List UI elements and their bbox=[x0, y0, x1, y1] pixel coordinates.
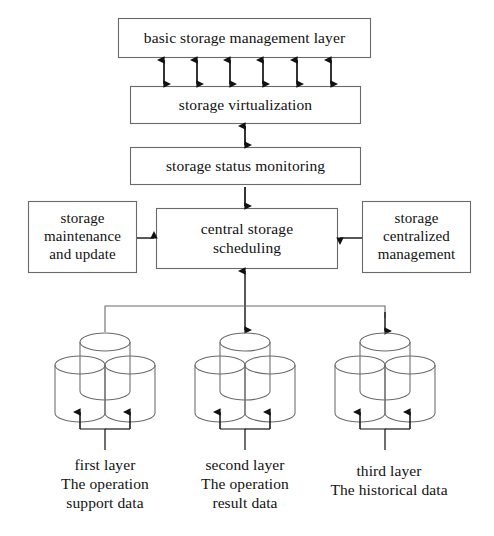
box-basic-storage-management-layer bbox=[119, 19, 371, 58]
box-storage-maintenance-and-update bbox=[29, 202, 137, 273]
layer-input-arrows-first bbox=[80, 412, 130, 450]
architecture-diagram: basic storage management layer storage v… bbox=[0, 0, 494, 536]
third-layer-name: third layer bbox=[313, 462, 465, 481]
box-storage-status-monitoring bbox=[131, 148, 361, 185]
box-storage-virtualization bbox=[131, 87, 361, 124]
connector-management-to-virtualization bbox=[164, 60, 331, 84]
first-layer-desc-1: The operation bbox=[30, 475, 180, 494]
caption-first-layer: first layer The operation support data bbox=[30, 456, 180, 513]
layer-input-arrows-second bbox=[220, 412, 270, 450]
third-layer-desc-1: The historical data bbox=[313, 481, 465, 500]
box-storage-centralized-management bbox=[363, 202, 471, 273]
first-layer-name: first layer bbox=[30, 456, 180, 475]
second-layer-desc-1: The operation bbox=[170, 475, 320, 494]
second-layer-desc-2: result data bbox=[170, 494, 320, 513]
second-layer-name: second layer bbox=[170, 456, 320, 475]
caption-second-layer: second layer The operation result data bbox=[170, 456, 320, 513]
layer-input-arrows-third bbox=[360, 412, 410, 450]
first-layer-desc-2: support data bbox=[30, 494, 180, 513]
box-central-storage-scheduling bbox=[157, 209, 338, 269]
caption-third-layer: third layer The historical data bbox=[313, 462, 465, 500]
cylinder-cluster-second-layer bbox=[195, 333, 295, 422]
cylinder-cluster-first-layer bbox=[55, 333, 155, 422]
cylinder-cluster-third-layer bbox=[335, 333, 435, 422]
